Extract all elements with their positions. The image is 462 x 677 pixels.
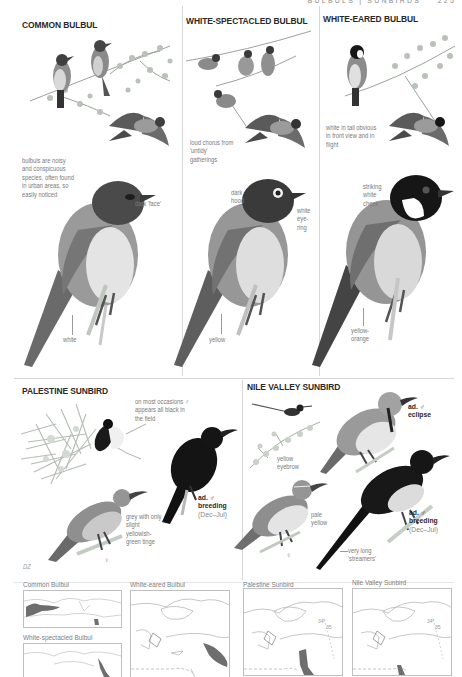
leader-line bbox=[340, 551, 348, 552]
latitude-label: 35 bbox=[435, 624, 441, 630]
map-white-spectacled-bulbul bbox=[23, 643, 122, 677]
species-title: WHITE-EARED BULBUL bbox=[323, 14, 418, 24]
leader-line bbox=[72, 315, 73, 335]
age-label: ad. ♂ bbox=[198, 494, 215, 501]
row-divider bbox=[14, 378, 454, 379]
leader-line bbox=[221, 314, 222, 334]
map-label: Common Bulbul bbox=[23, 580, 69, 589]
note-vent: yellow bbox=[209, 336, 225, 344]
common-bulbul-flight-illustration bbox=[104, 106, 174, 156]
map-palestine-sunbird: 34° 35 bbox=[243, 588, 343, 676]
dates-label: (Dec–Jul) bbox=[409, 526, 438, 534]
range-map bbox=[131, 591, 229, 677]
note-head: dark hood bbox=[231, 189, 250, 206]
eclipse-label: ad. ♂ eclipse bbox=[408, 403, 431, 420]
breeding-label: ad. ♂ breeding (Dec–Jul) bbox=[409, 509, 438, 534]
note-vent: yellow-orange bbox=[351, 327, 374, 344]
latitude-label: 35 bbox=[326, 624, 332, 630]
map-common-bulbul bbox=[23, 590, 122, 628]
plumage-label: breeding bbox=[198, 502, 227, 509]
dates-label: (Dec–Jul) bbox=[198, 511, 227, 519]
species-title: WHITE-SPECTACLED BULBUL bbox=[186, 16, 308, 26]
note-head: dark 'face' bbox=[135, 200, 161, 208]
range-map bbox=[24, 644, 121, 677]
note-female: grey with only slight yellowish-green ti… bbox=[126, 513, 166, 547]
map-label: White-spectacled Bulbul bbox=[23, 633, 92, 642]
white-eared-bulbul-flight-illustration bbox=[384, 106, 454, 156]
age-label: ad. ♂ bbox=[408, 403, 425, 410]
note-general: loud chorus from 'untidy' gatherings bbox=[190, 139, 234, 164]
plumage-label: breeding bbox=[409, 517, 438, 524]
white-spectacled-bulbul-flight-illustration bbox=[240, 108, 310, 158]
note-cheek: striking white cheek bbox=[363, 183, 385, 208]
map-nile-valley-sunbird: 34° 35 bbox=[352, 588, 452, 676]
artist-initials: DZ bbox=[23, 563, 31, 571]
range-map: 34° 35 bbox=[353, 589, 451, 675]
age-label: ad. ♂ bbox=[409, 509, 426, 516]
running-head: BULBULS | SUNBIRDS 225 bbox=[308, 0, 456, 4]
latitude-label: 34° bbox=[427, 618, 435, 624]
note-tail: very long 'streamers' bbox=[348, 547, 383, 564]
plumage-label: eclipse bbox=[408, 411, 431, 418]
note-vent: white bbox=[63, 336, 77, 344]
female-symbol: ♀ bbox=[104, 557, 109, 565]
map-label: Nile Valley Sunbird bbox=[352, 578, 406, 587]
running-head-text: BULBULS | SUNBIRDS bbox=[308, 0, 421, 4]
female-symbol: ♀ bbox=[286, 552, 291, 560]
map-white-eared-bulbul bbox=[130, 590, 230, 677]
note-eyebrow: yellow eyebrow bbox=[277, 455, 303, 472]
leader-line bbox=[363, 308, 364, 326]
male-breeding-label: ad. ♂ breeding (Dec–Jul) bbox=[198, 494, 227, 519]
latitude-label: 34° bbox=[318, 618, 326, 624]
range-map: 34° 35 bbox=[244, 589, 342, 675]
range-map bbox=[24, 591, 121, 627]
page-number: 225 bbox=[438, 0, 456, 4]
palestine-sunbird-shrub-illustration bbox=[16, 394, 146, 490]
note-general: white in tail obvious in front view and … bbox=[326, 124, 379, 149]
map-label: White-eared Bulbul bbox=[130, 580, 185, 589]
